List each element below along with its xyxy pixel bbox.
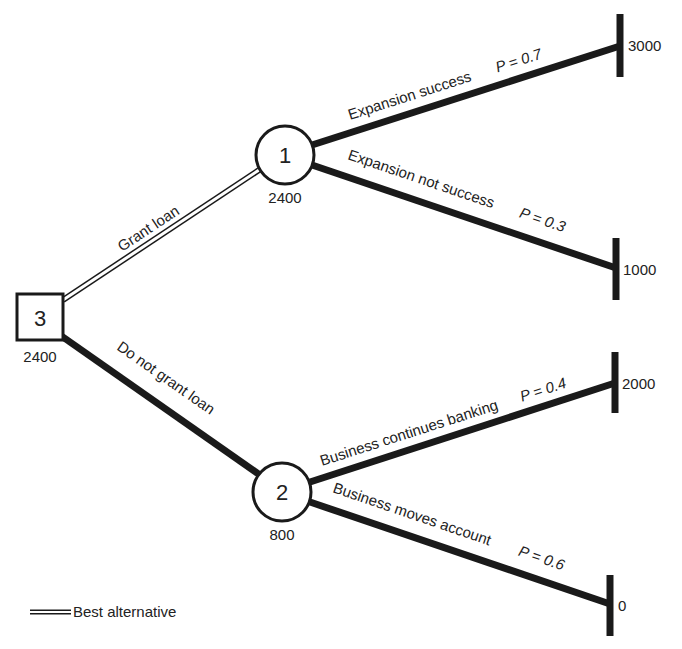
branch-label-expansion-success: Expansion success P = 0.7 [346, 45, 545, 123]
terminal-0: 0 [610, 575, 626, 636]
svg-text:P = 0.3: P = 0.3 [517, 204, 568, 236]
terminal-3000: 3000 [620, 14, 661, 77]
legend-label: Best alternative [73, 603, 176, 620]
svg-text:2000: 2000 [622, 375, 655, 392]
chance-node-2-value: 800 [269, 526, 294, 543]
branch-business-continues [310, 383, 615, 482]
svg-text:3000: 3000 [628, 37, 661, 54]
chance-node-1-label: 1 [279, 143, 291, 168]
branch-business-moves [310, 502, 610, 604]
branch-expansion-success [312, 46, 620, 145]
decision-node-3: 3 [17, 294, 63, 340]
chance-node-1: 1 [256, 126, 314, 184]
svg-text:0: 0 [618, 597, 626, 614]
branch-expansion-not-success [312, 165, 616, 268]
branch-label-business-continues: Business continues banking P = 0.4 [318, 374, 568, 469]
chance-node-2: 2 [253, 463, 311, 521]
branch-grant-loan [63, 170, 259, 300]
legend: Best alternative [30, 603, 176, 620]
branch-do-not-grant-loan [60, 335, 260, 475]
svg-text:1000: 1000 [623, 261, 656, 278]
svg-text:P = 0.6: P = 0.6 [517, 542, 568, 574]
decision-node-value: 2400 [23, 348, 56, 365]
terminal-2000: 2000 [615, 352, 655, 413]
terminal-1000: 1000 [616, 238, 656, 300]
branch-label-business-moves: Business moves account P = 0.6 [331, 479, 568, 574]
chance-node-2-label: 2 [276, 480, 288, 505]
decision-node-label: 3 [34, 306, 46, 331]
chance-node-1-value: 2400 [268, 189, 301, 206]
decision-tree-diagram: Grant loan Do not grant loan Expansion s… [0, 0, 682, 649]
